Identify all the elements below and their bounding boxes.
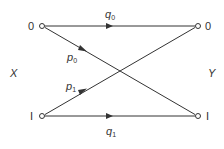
output-node-0-label: 0 (205, 21, 211, 32)
binary-channel-diagram: 0 I 0 I X Y q0 p0 p1 q1 (0, 0, 224, 149)
arrowhead-icon (78, 45, 87, 52)
edge-q0 (45, 23, 195, 29)
input-node-0 (40, 24, 45, 29)
input-node-0-label: 0 (28, 21, 34, 32)
output-node-0 (196, 24, 201, 29)
edge-q1-label: q1 (106, 126, 116, 140)
edge-p1-label: p1 (66, 81, 76, 95)
edge-q0-label: q0 (105, 9, 115, 23)
input-alphabet-label: X (10, 68, 17, 79)
arrowhead-icon (106, 113, 113, 119)
input-node-1-label: I (30, 111, 33, 122)
output-node-1-label: I (206, 111, 209, 122)
input-node-1 (40, 114, 45, 119)
edge-p0-label: p0 (67, 52, 77, 66)
edge-q1 (45, 113, 195, 119)
arrowhead-icon (106, 23, 113, 29)
output-alphabet-label: Y (208, 68, 215, 79)
output-node-1 (196, 114, 201, 119)
